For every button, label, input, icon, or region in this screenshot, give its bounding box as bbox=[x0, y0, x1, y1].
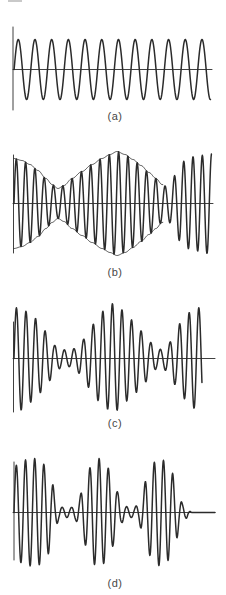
panel-d-label: (d) bbox=[95, 577, 135, 589]
panel-a-label: (a) bbox=[95, 110, 135, 122]
panel-b-label: (b) bbox=[95, 266, 135, 278]
waveforms-canvas bbox=[0, 0, 226, 595]
panel-b-modulated-wave bbox=[13, 152, 213, 256]
panel-d-overmodulated-wave bbox=[13, 459, 215, 566]
panel-a-carrier-wave bbox=[13, 27, 212, 110]
panel-c-label: (c) bbox=[95, 417, 135, 429]
carrier-wave-trace bbox=[14, 304, 202, 411]
am-waveform-figure: (a) (b) (c) (d) bbox=[0, 0, 226, 595]
carrier-wave-trace bbox=[14, 152, 211, 254]
panel-c-modulated-wave bbox=[13, 304, 215, 412]
